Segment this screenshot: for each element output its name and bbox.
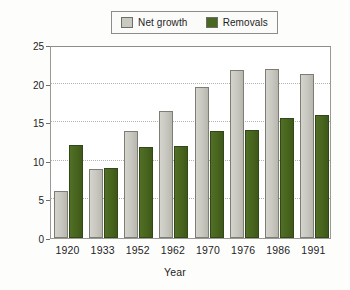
bar-group — [265, 47, 294, 238]
chart-legend: Net growth Removals — [111, 11, 278, 34]
bar-group — [159, 47, 188, 238]
plot-area — [50, 46, 331, 239]
net-growth-swatch-icon — [121, 17, 133, 28]
bar-removals — [245, 130, 259, 238]
chart-figure: Net growth Removals Billion cubic feet p… — [0, 0, 350, 290]
x-tick-label: 1920 — [48, 244, 88, 256]
bar-removals — [104, 168, 118, 238]
bar-net-growth — [89, 169, 103, 238]
bar-net-growth — [159, 111, 173, 238]
y-tick-label: 10 — [20, 156, 44, 167]
legend-label-net-growth: Net growth — [138, 17, 187, 28]
bar-net-growth — [54, 191, 68, 238]
x-tick-label: 1933 — [83, 244, 123, 256]
bar-net-growth — [265, 69, 279, 238]
bar-removals — [69, 145, 83, 238]
bar-group — [230, 47, 259, 238]
bar-net-growth — [195, 87, 209, 238]
y-tick-mark — [46, 239, 50, 240]
bar-group — [54, 47, 83, 238]
bar-removals — [280, 118, 294, 238]
y-tick-label: 0 — [20, 234, 44, 245]
x-tick-label: 1991 — [293, 244, 333, 256]
bar-removals — [210, 131, 224, 238]
y-tick-label: 5 — [20, 195, 44, 206]
x-tick-label: 1976 — [223, 244, 263, 256]
bar-net-growth — [300, 74, 314, 238]
removals-swatch-icon — [206, 17, 218, 28]
y-tick-label: 15 — [20, 118, 44, 129]
legend-label-removals: Removals — [223, 17, 268, 28]
bar-removals — [139, 147, 153, 238]
bar-removals — [174, 146, 188, 238]
bar-series-container — [51, 47, 330, 238]
bar-group — [195, 47, 224, 238]
bar-group — [89, 47, 118, 238]
bar-net-growth — [230, 70, 244, 238]
y-tick-label: 20 — [20, 79, 44, 90]
x-tick-label: 1962 — [153, 244, 193, 256]
x-tick-label: 1952 — [118, 244, 158, 256]
legend-item-net-growth: Net growth — [121, 17, 187, 28]
legend-item-removals: Removals — [206, 17, 268, 28]
bar-group — [300, 47, 329, 238]
bar-group — [124, 47, 153, 238]
bar-removals — [315, 115, 329, 238]
bar-net-growth — [124, 131, 138, 238]
x-tick-label: 1970 — [188, 244, 228, 256]
y-tick-label: 25 — [20, 41, 44, 52]
x-axis-label: Year — [0, 266, 350, 278]
x-tick-label: 1986 — [258, 244, 298, 256]
